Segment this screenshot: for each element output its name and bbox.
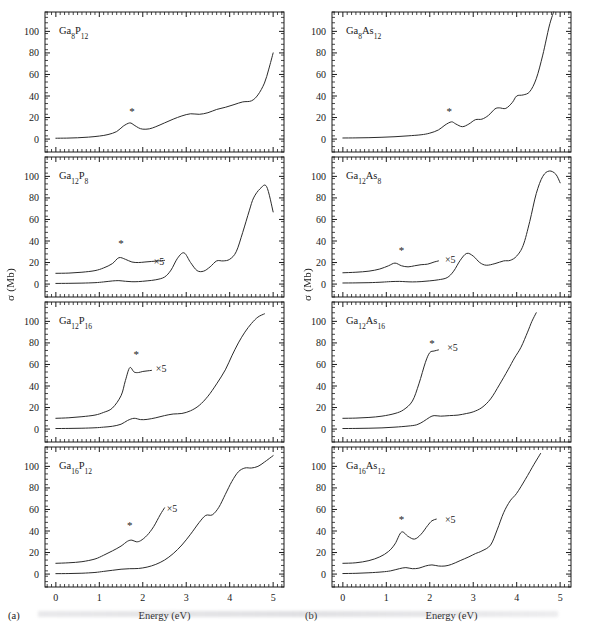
peak-star-marker: * bbox=[127, 519, 133, 531]
y-tick-label: 0 bbox=[321, 279, 326, 290]
x5-scale-annotation: ×5 bbox=[167, 503, 178, 514]
peak-star-marker: * bbox=[447, 105, 453, 117]
x-tick-label: 2 bbox=[427, 592, 432, 603]
figure-absorption-spectra: σ (Mb) σ (Mb) 020406080100Ga8P12*0204060… bbox=[0, 0, 594, 622]
x-tick-label: 5 bbox=[558, 592, 563, 603]
panel-label: Ga12P16 bbox=[59, 315, 92, 331]
y-tick-label: 20 bbox=[29, 547, 39, 558]
panel-column-b: 020406080100Ga8As12*020406080100Ga12As8*… bbox=[297, 0, 594, 622]
panel-label: Ga8As12 bbox=[346, 25, 381, 41]
y-tick-label: 40 bbox=[29, 236, 39, 247]
plot-svg-column-a: 020406080100Ga8P12*020406080100Ga12P8*×5… bbox=[0, 0, 297, 622]
panel-label: Ga8P12 bbox=[59, 25, 89, 41]
y-tick-label: 80 bbox=[29, 337, 39, 348]
x-tick-label: 2 bbox=[140, 592, 145, 603]
x5-scale-annotation: ×5 bbox=[445, 514, 456, 525]
y-tick-label: 60 bbox=[29, 504, 39, 515]
y-tick-label: 0 bbox=[34, 279, 39, 290]
y-tick-label: 20 bbox=[316, 257, 326, 268]
y-tick-label: 60 bbox=[316, 214, 326, 225]
peak-star-marker: * bbox=[399, 513, 405, 525]
x-tick-label: 0 bbox=[53, 592, 58, 603]
panel-label: Ga16P12 bbox=[59, 460, 92, 476]
y-tick-label: 20 bbox=[316, 547, 326, 558]
y-tick-label: 0 bbox=[321, 134, 326, 145]
y-tick-label: 60 bbox=[29, 214, 39, 225]
y-tick-label: 80 bbox=[29, 47, 39, 58]
x-tick-label: 3 bbox=[184, 592, 189, 603]
peak-star-marker: * bbox=[129, 105, 135, 117]
y-tick-label: 40 bbox=[316, 381, 326, 392]
y-tick-label: 40 bbox=[29, 381, 39, 392]
y-tick-label: 100 bbox=[24, 26, 39, 37]
data-curve bbox=[343, 171, 560, 283]
data-curve bbox=[56, 367, 152, 418]
y-tick-label: 100 bbox=[24, 316, 39, 327]
y-tick-label: 40 bbox=[316, 91, 326, 102]
peak-star-marker: * bbox=[134, 348, 140, 360]
panel-label: Ga16As12 bbox=[346, 460, 385, 476]
y-tick-label: 0 bbox=[34, 134, 39, 145]
data-curve bbox=[56, 508, 165, 563]
y-tick-label: 100 bbox=[24, 171, 39, 182]
y-tick-label: 0 bbox=[321, 569, 326, 580]
y-tick-label: 60 bbox=[29, 359, 39, 370]
panel-label: Ga12As16 bbox=[346, 315, 385, 331]
subfigure-label: (a) bbox=[8, 610, 20, 622]
data-curve bbox=[343, 350, 439, 418]
x-tick-label: 1 bbox=[97, 592, 102, 603]
panel-label: Ga12As8 bbox=[346, 170, 381, 186]
caption-blur-line bbox=[38, 611, 558, 617]
data-curve bbox=[343, 519, 436, 563]
x5-scale-annotation: ×5 bbox=[445, 254, 456, 265]
peak-star-marker: * bbox=[399, 244, 405, 256]
y-tick-label: 60 bbox=[316, 504, 326, 515]
data-curve bbox=[343, 313, 536, 429]
data-curve bbox=[343, 261, 439, 273]
panel-column-a: 020406080100Ga8P12*020406080100Ga12P8*×5… bbox=[0, 0, 297, 622]
y-tick-label: 100 bbox=[311, 171, 326, 182]
y-tick-label: 80 bbox=[316, 337, 326, 348]
y-tick-label: 40 bbox=[29, 91, 39, 102]
y-tick-label: 80 bbox=[29, 192, 39, 203]
y-tick-label: 0 bbox=[34, 569, 39, 580]
y-tick-label: 60 bbox=[316, 359, 326, 370]
x5-scale-annotation: ×5 bbox=[154, 256, 165, 267]
x-tick-label: 4 bbox=[227, 592, 232, 603]
x5-scale-annotation: ×5 bbox=[156, 363, 167, 374]
x-tick-label: 3 bbox=[471, 592, 476, 603]
data-curve bbox=[56, 53, 273, 138]
y-tick-label: 60 bbox=[29, 69, 39, 80]
y-tick-label: 60 bbox=[316, 69, 326, 80]
peak-star-marker: * bbox=[429, 337, 435, 349]
y-tick-label: 100 bbox=[311, 316, 326, 327]
x-tick-label: 4 bbox=[514, 592, 519, 603]
y-tick-label: 20 bbox=[316, 402, 326, 413]
y-tick-label: 100 bbox=[311, 26, 326, 37]
x-tick-label: 0 bbox=[340, 592, 345, 603]
y-tick-label: 40 bbox=[316, 236, 326, 247]
plot-svg-column-b: 020406080100Ga8As12*020406080100Ga12As8*… bbox=[297, 0, 594, 622]
y-tick-label: 100 bbox=[311, 461, 326, 472]
y-tick-label: 100 bbox=[24, 461, 39, 472]
y-tick-label: 80 bbox=[29, 482, 39, 493]
y-tick-label: 20 bbox=[316, 112, 326, 123]
y-tick-label: 80 bbox=[316, 47, 326, 58]
panel-label: Ga12P8 bbox=[59, 170, 89, 186]
y-tick-label: 20 bbox=[29, 112, 39, 123]
data-curve bbox=[56, 258, 165, 274]
x5-scale-annotation: ×5 bbox=[447, 342, 458, 353]
y-tick-label: 0 bbox=[34, 424, 39, 435]
y-tick-label: 20 bbox=[29, 402, 39, 413]
y-tick-label: 20 bbox=[29, 257, 39, 268]
x-tick-label: 1 bbox=[384, 592, 389, 603]
y-tick-label: 0 bbox=[321, 424, 326, 435]
x-tick-label: 5 bbox=[271, 592, 276, 603]
y-tick-label: 80 bbox=[316, 192, 326, 203]
y-tick-label: 80 bbox=[316, 482, 326, 493]
data-curve bbox=[343, 453, 541, 573]
peak-star-marker: * bbox=[118, 237, 124, 249]
data-curve bbox=[56, 185, 273, 283]
y-tick-label: 40 bbox=[29, 526, 39, 537]
y-tick-label: 40 bbox=[316, 526, 326, 537]
